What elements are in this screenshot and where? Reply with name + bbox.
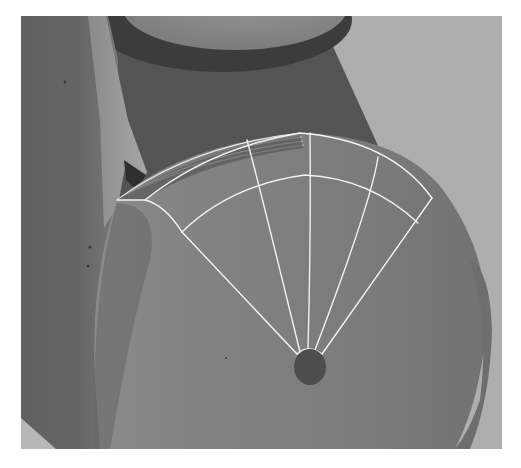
speckle	[64, 81, 67, 84]
speckle	[89, 246, 92, 249]
render-viewport	[21, 16, 502, 449]
speckle	[87, 265, 89, 267]
scene-render	[21, 16, 502, 449]
speckle	[225, 357, 227, 359]
center-hub	[294, 349, 326, 385]
